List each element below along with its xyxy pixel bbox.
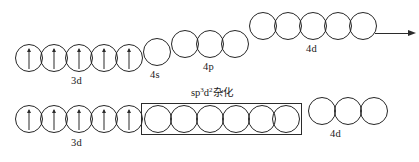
orbital-top-4p-2[interactable] xyxy=(196,30,224,58)
orbital-top-4d-3[interactable] xyxy=(299,12,327,40)
arrow-head-icon xyxy=(408,30,416,36)
orbital-top-3d-5[interactable] xyxy=(115,44,143,72)
orbital-bottom-3d-4[interactable] xyxy=(90,105,118,133)
label-hybridization: sp3d2杂化 xyxy=(191,88,233,99)
orbital-hybrid-2[interactable] xyxy=(170,105,198,133)
orbital-top-4d-1[interactable] xyxy=(249,12,277,40)
orbital-top-4d-5[interactable] xyxy=(349,12,377,40)
label-bottom-3d: 3d xyxy=(71,138,82,149)
orbital-diagram-canvas: 3d 4s 4p 4d xyxy=(0,0,419,162)
orbital-top-4d-4[interactable] xyxy=(324,12,352,40)
orbital-bottom-3d-2[interactable] xyxy=(40,105,68,133)
orbital-hybrid-1[interactable] xyxy=(144,105,172,133)
energy-increase-arrow xyxy=(375,33,416,34)
label-top-3d: 3d xyxy=(71,76,82,87)
orbital-top-4s-1[interactable] xyxy=(143,38,171,66)
label-top-4d: 4d xyxy=(306,44,317,55)
orbital-bottom-4d-2[interactable] xyxy=(334,97,362,125)
label-hyb-base: sp xyxy=(191,87,200,98)
label-hyb-tail: 杂化 xyxy=(213,87,233,98)
orbital-top-3d-1[interactable] xyxy=(15,44,43,72)
orbital-bottom-3d-1[interactable] xyxy=(15,105,43,133)
orbital-bottom-3d-3[interactable] xyxy=(65,105,93,133)
label-top-4p: 4p xyxy=(203,62,214,73)
orbital-hybrid-4[interactable] xyxy=(222,105,250,133)
orbital-top-3d-2[interactable] xyxy=(40,44,68,72)
orbital-top-4p-3[interactable] xyxy=(221,30,249,58)
orbital-top-3d-3[interactable] xyxy=(65,44,93,72)
label-bottom-4d: 4d xyxy=(330,129,341,140)
orbital-bottom-3d-5[interactable] xyxy=(115,105,143,133)
orbital-bottom-4d-1[interactable] xyxy=(308,97,336,125)
orbital-top-4p-1[interactable] xyxy=(171,30,199,58)
arrow-shaft xyxy=(375,33,409,34)
orbital-hybrid-3[interactable] xyxy=(196,105,224,133)
orbital-bottom-4d-3[interactable] xyxy=(360,97,388,125)
orbital-top-4d-2[interactable] xyxy=(274,12,302,40)
orbital-top-3d-4[interactable] xyxy=(90,44,118,72)
orbital-hybrid-6[interactable] xyxy=(272,105,300,133)
label-top-4s: 4s xyxy=(150,70,160,81)
